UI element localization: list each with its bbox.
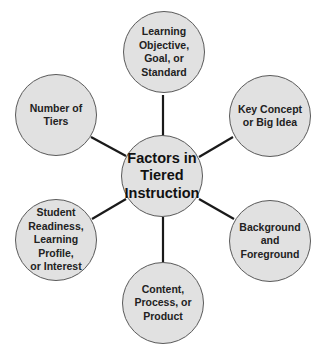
center-label: Factors in Tiered Instruction bbox=[125, 150, 200, 203]
node-learning-objective: Learning Objective, Goal, or Standard bbox=[123, 11, 205, 93]
node-label: Number of Tiers bbox=[30, 102, 83, 129]
connector-background-foreground bbox=[199, 199, 234, 219]
node-student-readiness: Student Readiness, Learning Profile, or … bbox=[15, 199, 97, 281]
node-content-process-product: Content, Process, or Product bbox=[122, 262, 204, 344]
node-label: Background and Foreground bbox=[239, 221, 300, 262]
node-key-concept: Key Concept or Big Idea bbox=[229, 75, 311, 157]
node-label: Learning Objective, Goal, or Standard bbox=[139, 25, 189, 79]
connector-key-concept bbox=[199, 137, 233, 157]
factors-hub-diagram: Learning Objective, Goal, or Standard Ke… bbox=[0, 0, 324, 355]
connector-number-of-tiers bbox=[91, 137, 126, 156]
node-label: Student Readiness, Learning Profile, or … bbox=[28, 206, 83, 274]
node-center-factors: Factors in Tiered Instruction bbox=[121, 135, 203, 217]
connector-student-readiness bbox=[92, 199, 126, 219]
node-number-of-tiers: Number of Tiers bbox=[15, 74, 97, 156]
node-background-foreground: Background and Foreground bbox=[229, 200, 311, 282]
node-label: Content, Process, or Product bbox=[134, 283, 191, 324]
node-label: Key Concept or Big Idea bbox=[238, 103, 302, 130]
